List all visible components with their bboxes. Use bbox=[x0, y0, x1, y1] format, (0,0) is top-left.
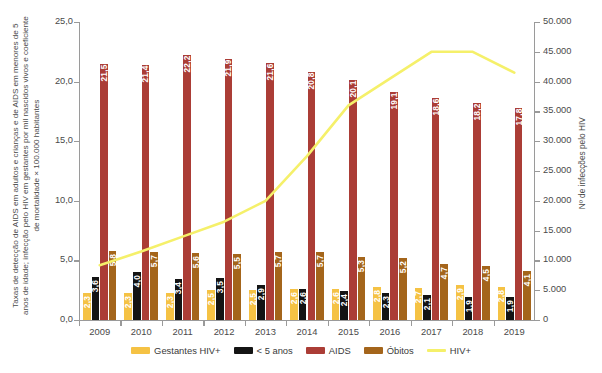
y-tick-label-right: 10.000 bbox=[543, 254, 571, 264]
y-tick-right bbox=[535, 231, 540, 232]
y-tick-right bbox=[535, 171, 540, 172]
chart-container: Taxas de detecção de AIDS em adultos e c… bbox=[0, 0, 602, 373]
y-axis-left-title: Taxas de detecção de AIDS em adultos e c… bbox=[11, 16, 42, 316]
x-tick bbox=[203, 321, 204, 326]
y-tick-right bbox=[535, 320, 540, 321]
y-tick-label-right: 40.000 bbox=[543, 76, 571, 86]
y-tick-label-left: 10,0 bbox=[55, 195, 73, 205]
y-tick-label-left: 25,0 bbox=[55, 16, 73, 26]
x-tick bbox=[120, 321, 121, 326]
x-tick bbox=[245, 321, 246, 326]
y-tick-label-right: 20.000 bbox=[543, 195, 571, 205]
y-tick-label-left: 0,0 bbox=[60, 314, 73, 324]
x-tick bbox=[79, 321, 80, 326]
x-tick bbox=[452, 321, 453, 326]
legend-swatch-icon bbox=[427, 349, 446, 352]
y-tick-label-left: 15,0 bbox=[55, 135, 73, 145]
x-tick bbox=[328, 321, 329, 326]
legend-label: HIV+ bbox=[450, 345, 471, 356]
x-tick bbox=[286, 321, 287, 326]
y-tick-right bbox=[535, 260, 540, 261]
y-tick-label-right: 0 bbox=[543, 314, 548, 324]
x-tick bbox=[369, 321, 370, 326]
x-tick bbox=[411, 321, 412, 326]
x-tick-label: 2015 bbox=[338, 326, 359, 337]
legend-label: < 5 anos bbox=[257, 345, 293, 356]
x-tick-label: 2009 bbox=[89, 326, 110, 337]
y-tick-label-right: 25.000 bbox=[543, 165, 571, 175]
y-tick-right bbox=[535, 290, 540, 291]
y-tick-right bbox=[535, 52, 540, 53]
y-tick-label-right: 50.000 bbox=[543, 16, 571, 26]
y-tick-label-right: 30.000 bbox=[543, 135, 571, 145]
y-tick-right bbox=[535, 201, 540, 202]
y-tick-right bbox=[535, 141, 540, 142]
y-tick-right bbox=[535, 82, 540, 83]
legend-label: Gestantes HIV+ bbox=[154, 345, 220, 356]
x-tick-label: 2014 bbox=[297, 326, 318, 337]
x-tick-label: 2011 bbox=[173, 326, 193, 337]
y-tick-right bbox=[535, 22, 540, 23]
x-tick-label: 2010 bbox=[131, 326, 152, 337]
plot-area: 0,05,010,015,020,025,0 05.00010.00015.00… bbox=[79, 22, 535, 320]
legend-item[interactable]: HIV+ bbox=[427, 345, 471, 356]
y-axis-right-title: Nº de infecções pelo HIV bbox=[577, 73, 587, 253]
chart-legend: Gestantes HIV+< 5 anosAIDSÓbitosHIV+ bbox=[0, 345, 602, 356]
legend-label: Óbitos bbox=[387, 345, 414, 356]
y-tick-label-right: 35.000 bbox=[543, 105, 571, 115]
legend-swatch-icon bbox=[306, 347, 325, 354]
x-tick bbox=[494, 321, 495, 326]
legend-item[interactable]: Óbitos bbox=[364, 345, 414, 356]
legend-item[interactable]: < 5 anos bbox=[234, 345, 293, 356]
hiv-line-series bbox=[79, 22, 535, 320]
x-tick-label: 2019 bbox=[504, 326, 525, 337]
y-tick-label-left: 20,0 bbox=[55, 76, 73, 86]
x-tick-label: 2012 bbox=[214, 326, 235, 337]
legend-label: AIDS bbox=[329, 345, 351, 356]
legend-swatch-icon bbox=[131, 347, 150, 354]
x-axis-line bbox=[79, 320, 535, 321]
legend-item[interactable]: Gestantes HIV+ bbox=[131, 345, 220, 356]
x-tick-label: 2013 bbox=[255, 326, 276, 337]
x-tick bbox=[162, 321, 163, 326]
x-tick-label: 2018 bbox=[462, 326, 483, 337]
legend-swatch-icon bbox=[364, 347, 383, 354]
y-tick-label-left: 5,0 bbox=[60, 254, 73, 264]
y-tick-label-right: 15.000 bbox=[543, 225, 571, 235]
legend-swatch-icon bbox=[234, 347, 253, 354]
y-tick-right bbox=[535, 111, 540, 112]
y-tick-label-right: 5.000 bbox=[543, 284, 566, 294]
y-tick-label-right: 45.000 bbox=[543, 46, 571, 56]
x-tick-label: 2016 bbox=[379, 326, 400, 337]
legend-item[interactable]: AIDS bbox=[306, 345, 351, 356]
x-tick-label: 2017 bbox=[421, 326, 442, 337]
